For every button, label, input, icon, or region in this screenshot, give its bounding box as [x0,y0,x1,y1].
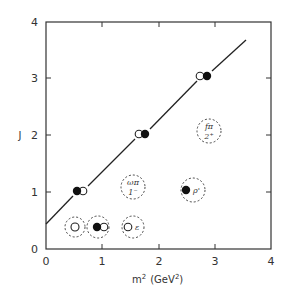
annotation-epsilon: ε [135,223,139,232]
y-tick-1: 1 [31,186,38,199]
x-axis-label: m2(GeV2) [132,273,183,285]
y-tick-2: 2 [31,129,38,142]
y-ticks [46,78,271,192]
x-tick-0: 0 [43,255,50,268]
y-tick-3: 3 [31,72,38,85]
open-points [71,72,204,231]
x-tick-3: 3 [212,255,219,268]
annotation-omegapi: ωπ [127,178,140,187]
annotation-omegapi-jp: 1⁻ [128,188,137,197]
y-tick-4: 4 [31,16,38,29]
x-tick-1: 1 [99,255,106,268]
annotation-fpi-jp: 2⁺ [203,132,213,141]
x-tick-4: 4 [268,255,275,268]
annotation-rho-prime: ρ' [192,186,200,195]
annotation-fpi: fπ [204,122,214,131]
x-tick-2: 2 [156,255,163,268]
regge-plot: 0 1 2 3 4 0 1 2 3 4 J m2(GeV2) [0,0,286,295]
filled-points [73,72,211,231]
y-axis-label: J [18,130,22,141]
y-tick-0: 0 [31,243,38,256]
plot-frame [46,22,271,249]
